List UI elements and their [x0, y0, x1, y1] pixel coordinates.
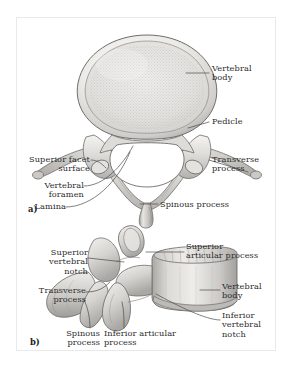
label-superior-articular-process: Superior articular process: [186, 242, 278, 261]
panel-b-marker: b): [30, 337, 40, 347]
label-inferior-articular-process: Inferior articular process: [104, 329, 186, 348]
figure-root: a): [0, 0, 289, 368]
label-lamina: Lamina: [20, 202, 66, 211]
label-transverse-process: Transverse process: [212, 155, 278, 174]
label-inferior-vertebral-notch: Inferior vertebral notch: [222, 311, 278, 339]
label-vertebral-body-b: Vertebral body: [222, 282, 278, 301]
lamina-lateral-shape: [88, 238, 120, 282]
label-spinous-process-b: Spinous process: [56, 329, 100, 348]
label-vertebral-body: Vertebral body: [212, 64, 274, 83]
label-superior-vertebral-notch: Superior vertebral notch: [22, 248, 88, 276]
label-spinous-process: Spinous process: [160, 200, 244, 209]
label-transverse-process-b: Transverse process: [18, 286, 86, 305]
label-pedicle: Pedicle: [212, 117, 274, 126]
label-vertebral-foramen: Vertebral foramen: [20, 181, 84, 200]
label-superior-facet-surface: Superior facet surface: [20, 155, 90, 174]
